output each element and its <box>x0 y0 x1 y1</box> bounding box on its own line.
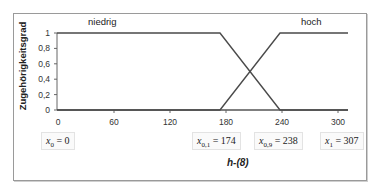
svg-text:180: 180 <box>219 117 233 127</box>
x-tick-labels: 0 60 120 180 240 300 <box>56 117 346 127</box>
plot-area: 1 0,8 0,6 0,4 0,2 0 0 60 120 180 240 300 <box>0 0 380 194</box>
annotation-x01: x0,1 = 174 <box>192 132 241 150</box>
label-hoch: hoch <box>301 16 322 27</box>
svg-text:0,6: 0,6 <box>38 59 50 69</box>
series-hoch <box>57 33 348 110</box>
annotation-x0: x0 = 0 <box>41 132 75 150</box>
svg-text:240: 240 <box>275 117 289 127</box>
svg-text:0,2: 0,2 <box>38 90 50 100</box>
annotation-x09: x0,9 = 238 <box>254 132 303 150</box>
x-axis-label: h-(8) <box>227 157 249 168</box>
svg-text:0: 0 <box>56 117 61 127</box>
svg-text:60: 60 <box>109 117 119 127</box>
svg-text:0,4: 0,4 <box>38 74 50 84</box>
svg-text:120: 120 <box>163 117 177 127</box>
y-tick-labels: 1 0,8 0,6 0,4 0,2 0 <box>38 28 50 115</box>
label-niedrig: niedrig <box>88 16 117 27</box>
svg-text:0,8: 0,8 <box>38 43 50 53</box>
svg-text:1: 1 <box>45 28 50 38</box>
series-niedrig <box>57 33 348 110</box>
annotation-x1: x1 = 307 <box>320 132 364 150</box>
svg-text:0: 0 <box>45 105 50 115</box>
svg-text:300: 300 <box>331 117 345 127</box>
